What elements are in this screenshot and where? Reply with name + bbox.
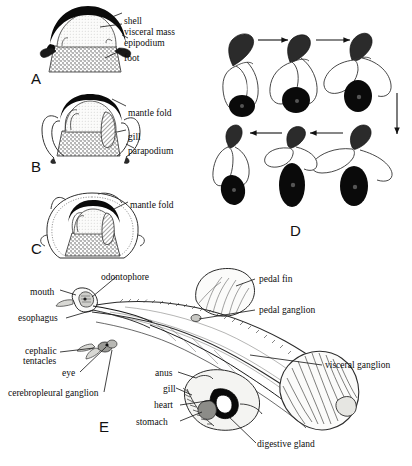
label-mouth: mouth bbox=[30, 287, 54, 297]
label-mantle-fold-b: mantle fold bbox=[128, 108, 172, 118]
figure-plate: shell visceral mass epipodium foot mantl… bbox=[0, 0, 412, 466]
d-stage-6 bbox=[213, 125, 249, 207]
label-stomach: stomach bbox=[136, 417, 168, 427]
d-stage-5 bbox=[265, 127, 317, 207]
panel-b-drawing bbox=[42, 94, 140, 164]
label-visceral-mass: visceral mass bbox=[124, 27, 175, 37]
label-tentacles: tentacles bbox=[23, 356, 56, 366]
d-stage-1 bbox=[223, 34, 258, 117]
d-stage-4 bbox=[312, 125, 392, 206]
panel-a-drawing bbox=[40, 6, 131, 72]
d-stage-3 bbox=[324, 33, 391, 112]
panel-letter-a: A bbox=[31, 70, 42, 87]
panel-d-drawing bbox=[213, 33, 397, 207]
label-epipodium: epipodium bbox=[124, 38, 165, 48]
label-eye: eye bbox=[62, 368, 75, 378]
label-mantle-fold-c: mantle fold bbox=[130, 200, 174, 210]
panel-letter-b: B bbox=[31, 158, 42, 175]
panel-e-drawing bbox=[56, 268, 359, 443]
panel-letter-c: C bbox=[31, 240, 42, 257]
label-anus: anus bbox=[155, 368, 172, 378]
panel-letter-e: E bbox=[99, 418, 110, 435]
panel-c-drawing bbox=[41, 193, 145, 258]
e-viscera bbox=[183, 370, 262, 431]
label-odontophore: odontophore bbox=[101, 272, 149, 282]
label-gill-e: gill bbox=[163, 384, 176, 394]
label-pedal-fin: pedal fin bbox=[259, 274, 293, 284]
label-cephalic: cephalic bbox=[25, 346, 57, 356]
label-pedal-ganglion: pedal ganglion bbox=[259, 305, 315, 315]
label-digestive-gland: digestive gland bbox=[257, 439, 315, 449]
label-gill-b: gill bbox=[128, 132, 141, 142]
label-parapodium: parapodium bbox=[128, 146, 173, 156]
label-heart: heart bbox=[154, 400, 173, 410]
label-cerebropleural-ganglion: cerebropleural ganglion bbox=[8, 388, 98, 398]
panel-letter-d: D bbox=[290, 222, 301, 239]
label-esophagus: esophagus bbox=[18, 313, 58, 323]
label-visceral-ganglion: visceral ganglion bbox=[325, 360, 390, 370]
label-shell: shell bbox=[124, 16, 142, 26]
label-foot: foot bbox=[124, 53, 139, 63]
d-stage-2 bbox=[270, 35, 317, 113]
